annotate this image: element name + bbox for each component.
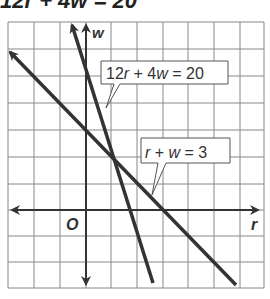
graph: w r O 12r + 4w = 20 r + w = 3 — [0, 0, 270, 299]
r-axis-label: r — [251, 216, 258, 233]
origin-label: O — [66, 216, 79, 233]
svg-text:12r + 4w = 20: 12r + 4w = 20 — [106, 65, 204, 82]
label-12r: 12r + 4w = 20 — [101, 61, 228, 108]
w-axis-label: w — [92, 24, 105, 41]
svg-text:r + w = 3: r + w = 3 — [145, 144, 207, 161]
line-r-w-3 — [10, 52, 236, 285]
label-r-w: r + w = 3 — [141, 138, 230, 195]
